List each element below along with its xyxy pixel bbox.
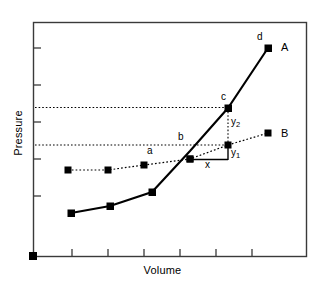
annotation-x: x bbox=[205, 160, 210, 170]
series-b-marker bbox=[65, 167, 72, 174]
annotation-y1: y1 bbox=[231, 148, 240, 158]
series-a-marker bbox=[265, 45, 273, 53]
series-a-line bbox=[71, 48, 268, 213]
series-a-marker bbox=[68, 210, 76, 218]
plot-frame bbox=[34, 23, 307, 257]
annotation-y1-sub: 1 bbox=[236, 151, 240, 160]
intersection-marker bbox=[187, 156, 194, 163]
annotation-y2: y2 bbox=[231, 117, 240, 127]
series-a-label: A bbox=[281, 42, 288, 53]
x-axis-title: Volume bbox=[0, 264, 325, 276]
series-b bbox=[65, 130, 272, 174]
origin-marker bbox=[29, 252, 37, 260]
chart-canvas bbox=[0, 0, 325, 285]
y-axis-ticks bbox=[34, 48, 42, 196]
annotation-a: a bbox=[147, 146, 153, 156]
series-a bbox=[68, 45, 273, 218]
annotation-c: c bbox=[221, 92, 226, 102]
plot-border bbox=[34, 23, 307, 257]
series-a-marker bbox=[149, 189, 157, 197]
y-axis-title: Pressure bbox=[12, 83, 24, 183]
series-b-marker bbox=[265, 130, 272, 137]
series-b-marker bbox=[141, 162, 148, 169]
annotation-d: d bbox=[257, 32, 263, 42]
series-b-marker bbox=[105, 167, 112, 174]
annotation-y2-sub: 2 bbox=[236, 120, 240, 129]
series-b-label: B bbox=[281, 128, 288, 139]
series-a-marker bbox=[225, 105, 233, 113]
chart-figure: Volume Pressure a b c d x y1 y2 A B bbox=[0, 0, 325, 285]
x-axis-ticks bbox=[72, 249, 252, 257]
series-a-marker bbox=[107, 203, 115, 211]
annotation-b: b bbox=[178, 132, 184, 142]
